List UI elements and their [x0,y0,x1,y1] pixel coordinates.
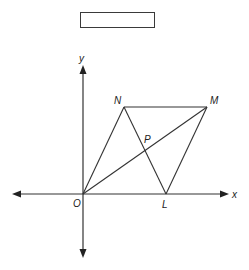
x-axis-right-arrow-icon [220,191,229,198]
y-axis-up-arrow-icon [80,65,87,74]
point-label-n: N [114,95,122,106]
point-label-p: P [144,134,151,145]
segment-on [83,107,124,194]
y-axis [80,65,87,258]
x-axis [12,191,229,198]
y-axis-label: y [78,53,85,64]
x-axis-label: x [231,189,238,200]
point-label-m: M [210,95,219,106]
point-label-o: O [73,198,81,209]
diagonal-nl [124,107,166,194]
y-axis-down-arrow-icon [80,249,87,258]
x-axis-left-arrow-icon [12,191,21,198]
parallelogram-onml [83,107,207,194]
coordinate-figure: y x O N M L P [0,0,249,270]
point-label-l: L [162,199,168,210]
segment-ml [166,107,207,194]
